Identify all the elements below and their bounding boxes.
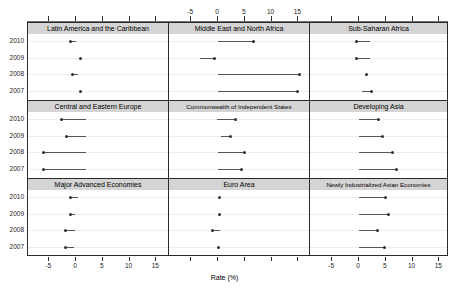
data-point[interactable]: [60, 118, 63, 121]
range-line: [218, 152, 245, 153]
data-point[interactable]: [252, 40, 255, 43]
chart-panel: Middle East and North Africa: [168, 22, 309, 100]
data-point[interactable]: [211, 229, 214, 232]
bottom-tick-label: 15: [152, 262, 159, 270]
gridline: [310, 58, 447, 59]
range-line: [218, 169, 242, 170]
chart-panel: Commonwealth of Independent States: [168, 100, 309, 178]
data-point[interactable]: [213, 57, 216, 60]
bottom-tick-label: 5: [100, 262, 104, 270]
panel-plot-area: [169, 190, 309, 255]
gridline: [28, 58, 168, 59]
range-line: [66, 230, 75, 231]
range-line: [66, 136, 85, 137]
range-line: [357, 58, 370, 59]
data-point[interactable]: [64, 246, 67, 249]
data-point[interactable]: [69, 213, 72, 216]
top-tick: [331, 16, 332, 21]
data-point[interactable]: [218, 213, 221, 216]
top-tick: [297, 16, 298, 21]
data-point[interactable]: [377, 118, 380, 121]
data-point[interactable]: [383, 246, 386, 249]
data-point[interactable]: [42, 168, 45, 171]
bottom-tick: [358, 257, 359, 261]
chart-title: [0, 0, 449, 8]
top-axis: -5051015: [0, 8, 449, 22]
data-point[interactable]: [298, 73, 301, 76]
bottom-tick: [129, 257, 130, 261]
year-label: 2008: [0, 70, 24, 78]
bottom-tick: [244, 257, 245, 261]
range-line: [44, 152, 86, 153]
gridline: [28, 74, 168, 75]
x-axis-title: Rate (%): [0, 274, 449, 281]
year-label: 2008: [0, 148, 24, 156]
range-line: [359, 197, 386, 198]
bottom-tick-label: 0: [73, 262, 77, 270]
bottom-tick-label: -5: [328, 262, 334, 270]
bottom-tick: [48, 257, 49, 261]
top-tick: [102, 16, 103, 21]
top-tick-label: 15: [294, 8, 301, 15]
data-point[interactable]: [42, 151, 45, 154]
data-point[interactable]: [370, 90, 373, 93]
range-line: [359, 152, 393, 153]
data-point[interactable]: [79, 57, 82, 60]
data-point[interactable]: [234, 118, 237, 121]
range-line: [359, 136, 383, 137]
panel-plot-area: [28, 112, 168, 178]
gridline: [28, 197, 168, 198]
panel-plot-area: [310, 112, 447, 178]
data-point[interactable]: [296, 90, 299, 93]
range-line: [359, 169, 397, 170]
top-tick-label: 0: [215, 8, 219, 15]
gridline: [28, 230, 168, 231]
data-point[interactable]: [64, 229, 67, 232]
year-label: 2010: [0, 193, 24, 201]
panel-plot-area: [310, 34, 447, 100]
bottom-tick: [331, 257, 332, 261]
data-point[interactable]: [384, 196, 387, 199]
data-point[interactable]: [240, 168, 243, 171]
year-label: 2009: [0, 210, 24, 218]
data-point[interactable]: [229, 135, 232, 138]
top-tick: [48, 16, 49, 21]
gridline: [28, 247, 168, 248]
bottom-tick: [412, 257, 413, 261]
chart-panel: Newly Industrialized Asian Economies: [309, 178, 448, 256]
chart-panel: Central and Eastern Europe: [27, 100, 168, 178]
year-label: 2010: [0, 37, 24, 45]
data-point[interactable]: [71, 73, 74, 76]
range-line: [66, 247, 74, 248]
top-tick: [244, 16, 245, 21]
bottom-axis: -5-5005510101515: [0, 257, 449, 273]
data-point[interactable]: [381, 135, 384, 138]
bottom-tick-label: 0: [356, 262, 360, 270]
bottom-tick: [271, 257, 272, 261]
data-point[interactable]: [376, 229, 379, 232]
data-point[interactable]: [69, 40, 72, 43]
data-point[interactable]: [218, 196, 221, 199]
data-point[interactable]: [217, 246, 220, 249]
year-label: 2009: [0, 54, 24, 62]
range-line: [44, 169, 86, 170]
top-tick-label: 5: [242, 8, 246, 15]
bottom-tick-label: 15: [435, 262, 442, 270]
bottom-tick-label: 10: [408, 262, 415, 270]
data-point[interactable]: [79, 90, 82, 93]
bottom-tick-label: -5: [45, 262, 51, 270]
data-point[interactable]: [365, 73, 368, 76]
data-point[interactable]: [355, 40, 358, 43]
data-point[interactable]: [243, 151, 246, 154]
gridline: [310, 91, 447, 92]
top-tick-label: -5: [187, 8, 193, 15]
range-line: [359, 119, 378, 120]
data-point[interactable]: [355, 57, 358, 60]
data-point[interactable]: [69, 196, 72, 199]
gridline: [310, 41, 447, 42]
bottom-tick: [438, 257, 439, 261]
data-point[interactable]: [391, 151, 394, 154]
range-line: [359, 247, 385, 248]
data-point[interactable]: [65, 135, 68, 138]
bottom-tick-label: 5: [383, 262, 387, 270]
